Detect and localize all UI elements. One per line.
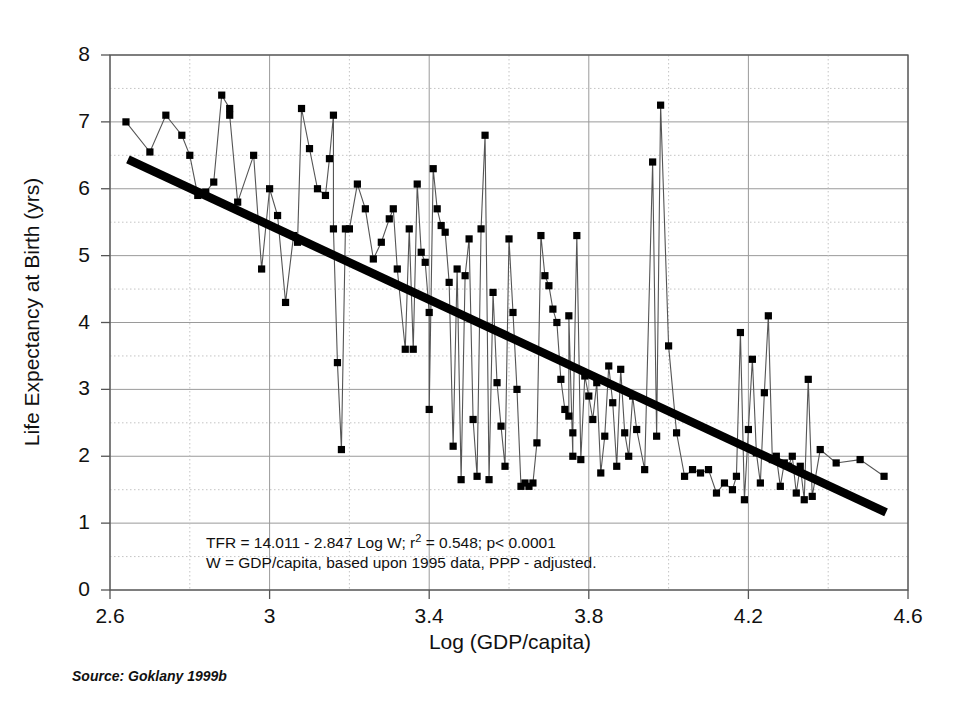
y-tick-label: 1: [50, 510, 90, 534]
y-tick-label: 7: [50, 109, 90, 133]
chart-figure: Life Expectancy at Birth (yrs) Log (GDP/…: [0, 0, 963, 709]
source-caption: Source: Goklany 1999b: [72, 668, 227, 684]
data-connector-line: [126, 95, 884, 500]
y-tick-label: 8: [50, 42, 90, 66]
y-tick-label: 5: [50, 243, 90, 267]
scatter-plot-svg: [0, 0, 963, 709]
x-tick-label: 4.2: [718, 604, 778, 628]
x-tick-label: 4.6: [878, 604, 938, 628]
annotation-line-2: W = GDP/capita, based upon 1995 data, PP…: [206, 553, 596, 573]
tick-marks: [101, 55, 908, 599]
y-tick-label: 0: [50, 577, 90, 601]
y-axis-title: Life Expectancy at Birth (yrs): [20, 52, 44, 572]
major-gridlines: [110, 55, 908, 590]
x-tick-label: 3.8: [559, 604, 619, 628]
x-tick-label: 3.4: [399, 604, 459, 628]
x-tick-label: 2.6: [80, 604, 140, 628]
x-axis-title: Log (GDP/capita): [110, 630, 910, 654]
x-tick-label: 3: [240, 604, 300, 628]
annotation-line-1-prefix: TFR = 14.011 - 2.847 Log W; r: [206, 534, 415, 551]
regression-annotation: TFR = 14.011 - 2.847 Log W; r2 = 0.548; …: [206, 528, 596, 573]
y-tick-label: 4: [50, 310, 90, 334]
annotation-line-1: TFR = 14.011 - 2.847 Log W; r2 = 0.548; …: [206, 528, 596, 553]
y-tick-label: 6: [50, 176, 90, 200]
y-tick-label: 3: [50, 376, 90, 400]
y-tick-label: 2: [50, 443, 90, 467]
trendline: [128, 159, 886, 512]
annotation-line-1-suffix: = 0.548; p< 0.0001: [421, 534, 555, 551]
